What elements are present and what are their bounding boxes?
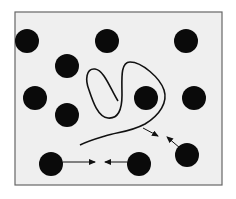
diagram-svg: [0, 0, 236, 199]
particle-p2: [95, 29, 119, 53]
particle-p10: [127, 152, 151, 176]
particle-p6: [134, 86, 158, 110]
particle-p5: [23, 86, 47, 110]
particle-p8: [55, 103, 79, 127]
particle-p9: [39, 152, 63, 176]
diagram-canvas: [0, 0, 236, 199]
particle-p1: [15, 29, 39, 53]
particle-p4: [55, 54, 79, 78]
particle-p3: [174, 29, 198, 53]
particle-p7: [182, 86, 206, 110]
